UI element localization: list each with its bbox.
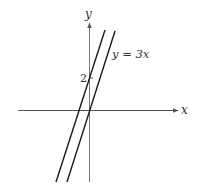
graph-figure: x y 2 y = 3x	[0, 0, 199, 194]
line-y-3x	[67, 31, 115, 182]
y-tick-label-2: 2	[80, 72, 87, 85]
x-axis-label: x	[181, 103, 188, 117]
line-y-3x-plus-2	[56, 30, 105, 182]
line-label-y-3x: y = 3x	[111, 47, 150, 61]
y-axis-label: y	[84, 7, 92, 21]
